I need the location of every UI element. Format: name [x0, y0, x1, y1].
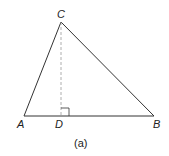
label-a: A — [16, 118, 24, 130]
caption: (a) — [74, 137, 87, 149]
label-c: C — [57, 8, 65, 20]
segment-cb — [61, 22, 154, 116]
label-d: D — [55, 118, 63, 130]
right-angle-marker — [61, 108, 69, 116]
segment-ac — [24, 22, 61, 116]
triangle-diagram: C A D B (a) — [0, 0, 169, 156]
label-b: B — [153, 118, 160, 130]
